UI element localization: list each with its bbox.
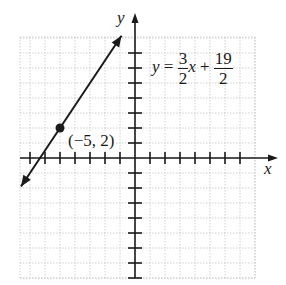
equation-equals: = (164, 57, 174, 76)
intercept-denominator: 2 (214, 69, 233, 87)
coordinate-plane (0, 0, 286, 285)
equation-var: x (188, 57, 196, 76)
intercept-fraction: 19 2 (214, 50, 233, 87)
y-axis-label: y (117, 8, 125, 28)
slope-fraction: 3 2 (178, 50, 189, 87)
slope-numerator: 3 (178, 50, 189, 69)
point-label: (−5, 2) (67, 131, 115, 151)
equation-label: y = 3 2 x + 19 2 (152, 50, 233, 87)
point-marker (56, 124, 65, 133)
arrowhead-icon (21, 175, 31, 187)
x-axis-label: x (264, 159, 272, 179)
equation-plus: + (200, 57, 210, 76)
arrowhead-icon (112, 36, 122, 48)
line-series (21, 36, 122, 187)
intercept-numerator: 19 (214, 50, 233, 69)
equation-lhs: y (152, 57, 160, 76)
slope-denominator: 2 (178, 69, 189, 87)
